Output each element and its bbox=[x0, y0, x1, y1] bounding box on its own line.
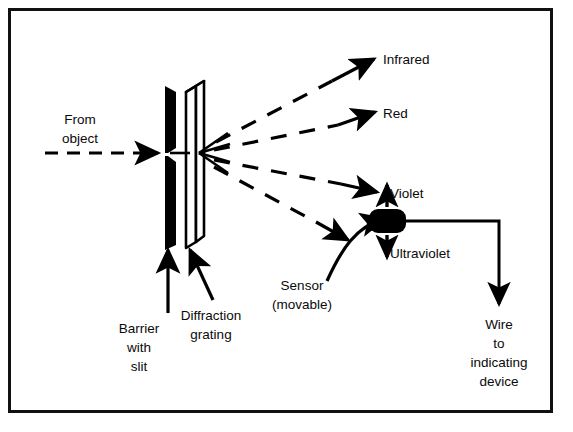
wire-label-line2: to bbox=[493, 336, 504, 351]
spectrometer-diagram: From object bbox=[0, 0, 573, 432]
ray-ultraviolet bbox=[214, 167, 348, 240]
ultraviolet-label: Ultraviolet bbox=[390, 246, 450, 261]
ray-infrared bbox=[216, 59, 374, 142]
grating-label-line1: Diffraction bbox=[181, 308, 242, 323]
barrier-with-slit bbox=[165, 86, 176, 250]
infrared-label: Infrared bbox=[383, 52, 430, 67]
diagram-canvas: From object bbox=[0, 0, 573, 432]
wire-label-line4: device bbox=[479, 374, 518, 389]
grating-leader bbox=[190, 250, 213, 300]
ray-red bbox=[214, 112, 375, 150]
sensor-label-line1: Sensor bbox=[281, 278, 324, 293]
ray-violet bbox=[214, 160, 377, 192]
diagram-frame bbox=[10, 10, 552, 412]
sensor-label-line2: (movable) bbox=[272, 297, 332, 312]
from-object-label-line2: object bbox=[62, 131, 98, 146]
diffracted-rays bbox=[214, 59, 377, 240]
barrier-label-line2: with bbox=[126, 340, 151, 355]
wire-label-line1: Wire bbox=[485, 317, 513, 332]
diffraction-grating bbox=[186, 81, 204, 248]
component-leader-arrows bbox=[168, 250, 213, 313]
wire-to-indicating-device bbox=[406, 221, 499, 304]
wire-label-line3: indicating bbox=[470, 355, 527, 370]
red-label: Red bbox=[383, 106, 408, 121]
grating-label-line2: grating bbox=[190, 327, 231, 342]
barrier-label-line1: Barrier bbox=[119, 321, 160, 336]
from-object-label-line1: From bbox=[64, 112, 96, 127]
violet-label: Violet bbox=[390, 186, 424, 201]
barrier-label-line3: slit bbox=[131, 359, 148, 374]
